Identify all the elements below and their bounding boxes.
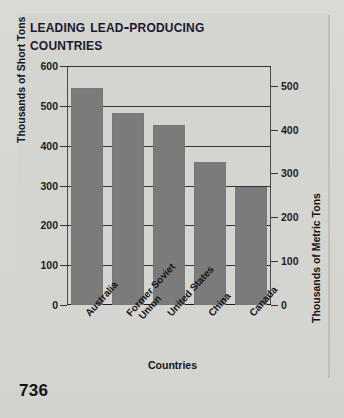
chart-title-line-1: Leading Lead-Producing — [30, 17, 300, 35]
y-tick-label-right: 400 — [281, 124, 299, 136]
y-tick-label-left: 300 — [40, 180, 58, 192]
y-tick-label-right: 0 — [281, 299, 287, 311]
y-tick-left — [60, 186, 67, 187]
y-tick-label-left: 400 — [40, 140, 58, 152]
page-number: 736 — [19, 381, 48, 401]
x-axis-title: Countries — [17, 359, 328, 371]
y-tick-right — [271, 130, 278, 131]
chart-title-line-2: Countries — [30, 35, 300, 53]
y-tick-label-left: 100 — [40, 259, 58, 271]
y-tick-right — [271, 86, 278, 87]
y-tick-label-left: 0 — [52, 299, 58, 311]
y-tick-label-left: 600 — [40, 60, 58, 72]
y-tick-left — [60, 225, 67, 226]
textbook-page: Leading Lead-Producing Countries Thousan… — [0, 0, 344, 418]
chart-panel: Leading Lead-Producing Countries Thousan… — [17, 13, 328, 376]
y-tick-label-left: 500 — [40, 100, 58, 112]
y-tick-left — [60, 265, 67, 266]
y-tick-left — [60, 305, 67, 306]
y-tick-right — [271, 305, 278, 306]
y-tick-label-right: 100 — [281, 255, 299, 267]
y-tick-right — [271, 217, 278, 218]
bar — [235, 187, 267, 305]
y-tick-right — [271, 173, 278, 174]
y-tick-label-left: 200 — [40, 219, 58, 231]
y-axis-title-right: Thousands of Metric Tons — [310, 193, 322, 323]
y-tick-left — [60, 66, 67, 67]
bar — [71, 88, 103, 305]
y-tick-left — [60, 146, 67, 147]
y-tick-label-right: 300 — [281, 167, 299, 179]
y-tick-right — [271, 261, 278, 262]
chart-title: Leading Lead-Producing Countries — [30, 17, 300, 53]
y-tick-label-right: 500 — [281, 80, 299, 92]
y-tick-left — [60, 106, 67, 107]
y-axis-title-left: Thousands of Short Tons — [15, 17, 27, 143]
bar — [112, 113, 144, 305]
gridline — [67, 66, 271, 67]
y-tick-label-right: 200 — [281, 211, 299, 223]
